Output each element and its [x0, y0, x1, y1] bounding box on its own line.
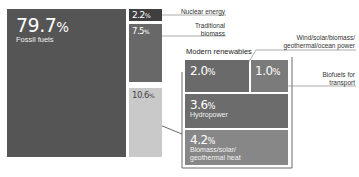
- block-wind-solar: 2.0%: [185, 60, 249, 92]
- traditional-annotation: Traditional biomass: [195, 22, 225, 38]
- hydro-label: Hydropower: [190, 111, 288, 119]
- heat-pct: 4.2: [190, 133, 208, 147]
- block-biofuels: 1.0%: [251, 60, 288, 92]
- wind-annotation: Wind/solar/biomass/ geothermal/ocean pow…: [283, 34, 355, 50]
- heat-label-2: geothermal heat: [190, 154, 288, 162]
- block-modern-renewables: 10.6%: [129, 88, 162, 157]
- heat-label-1: Biomass/solar/: [190, 146, 288, 154]
- nuclear-annotation: Nuclear energy: [181, 8, 225, 16]
- block-heat: 4.2% Biomass/solar/ geothermal heat: [185, 130, 288, 165]
- fossil-pct: 79.7: [16, 14, 56, 36]
- biofuels-annotation: Biofuels for transport: [322, 71, 355, 87]
- modern-renewables-title: Modern renewables: [186, 47, 252, 56]
- biofuels-pct: 1.0: [255, 64, 273, 78]
- modern-pct: 10.6: [132, 90, 149, 100]
- nuclear-pct: 2.2: [132, 10, 145, 20]
- block-nuclear: 2.2%: [129, 9, 162, 21]
- block-traditional-biomass: 7.5%: [129, 24, 162, 82]
- block-hydropower: 3.6% Hydropower: [185, 94, 288, 128]
- hydro-pct: 3.6: [190, 98, 208, 112]
- block-fossil-fuels: 79.7% Fossil fuels: [7, 9, 126, 157]
- wind-pct: 2.0: [190, 64, 208, 78]
- traditional-pct: 7.5: [132, 26, 144, 36]
- fossil-label: Fossil fuels: [16, 36, 126, 45]
